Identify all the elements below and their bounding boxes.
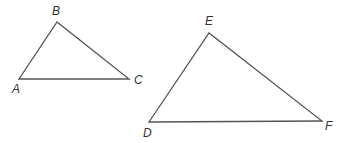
vertex-label-c: C xyxy=(134,73,143,87)
triangles-diagram: A B C D E F xyxy=(0,0,343,143)
vertex-label-f: F xyxy=(325,119,333,133)
triangle-def xyxy=(149,33,322,122)
vertex-label-e: E xyxy=(205,14,214,28)
vertex-label-b: B xyxy=(52,4,60,18)
vertex-label-d: D xyxy=(143,126,152,140)
vertex-label-a: A xyxy=(11,82,20,96)
triangle-abc xyxy=(19,22,129,79)
